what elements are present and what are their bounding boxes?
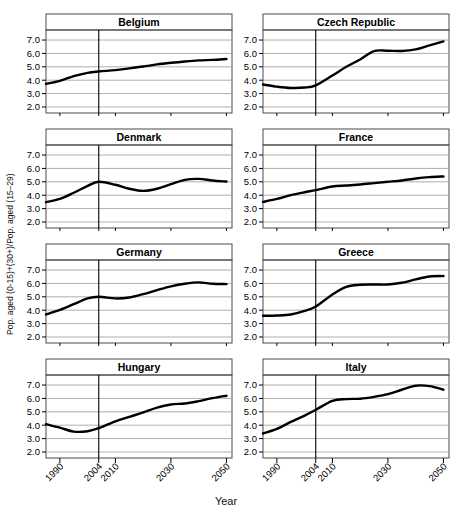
y-tick-label: 7.0 <box>244 264 257 275</box>
y-tick-label: 4.0 <box>27 420 40 431</box>
y-tick-label: 2.0 <box>244 216 257 227</box>
y-tick-label: 4.0 <box>244 75 257 86</box>
y-tick-label: 2.0 <box>27 446 40 457</box>
y-tick-label: 5.0 <box>27 291 40 302</box>
panel-title: Belgium <box>118 16 159 28</box>
y-tick-label: 4.0 <box>27 190 40 201</box>
y-tick-label: 5.0 <box>244 176 257 187</box>
y-tick-label: 3.0 <box>27 88 40 99</box>
panel-title: Hungary <box>118 361 161 373</box>
y-tick-label: 7.0 <box>27 264 40 275</box>
panel-title: Czech Republic <box>317 16 395 28</box>
y-tick-label: 4.0 <box>244 305 257 316</box>
y-tick-label: 3.0 <box>244 318 257 329</box>
y-axis-label: Pop. aged (0-15)+(30+)/Pop. aged (15–29) <box>5 173 15 335</box>
panel-title: Germany <box>116 246 162 258</box>
y-tick-label: 7.0 <box>244 34 257 45</box>
y-tick-label: 5.0 <box>27 176 40 187</box>
y-tick-label: 6.0 <box>244 278 257 289</box>
y-tick-label: 7.0 <box>27 379 40 390</box>
y-tick-label: 6.0 <box>27 278 40 289</box>
y-tick-label: 2.0 <box>244 446 257 457</box>
y-tick-label: 2.0 <box>27 331 40 342</box>
y-tick-label: 3.0 <box>244 203 257 214</box>
y-tick-label: 3.0 <box>244 433 257 444</box>
y-tick-label: 5.0 <box>27 61 40 72</box>
y-tick-label: 6.0 <box>244 48 257 59</box>
y-tick-label: 4.0 <box>244 420 257 431</box>
y-tick-label: 7.0 <box>244 379 257 390</box>
y-tick-label: 2.0 <box>27 216 40 227</box>
y-tick-label: 4.0 <box>244 190 257 201</box>
y-tick-label: 2.0 <box>27 101 40 112</box>
y-tick-label: 7.0 <box>27 34 40 45</box>
y-tick-label: 7.0 <box>27 149 40 160</box>
panel-title: Denmark <box>117 131 162 143</box>
panel-title: Italy <box>345 361 366 373</box>
y-tick-label: 7.0 <box>244 149 257 160</box>
y-tick-label: 4.0 <box>27 305 40 316</box>
x-axis-label: Year <box>215 495 238 507</box>
y-tick-label: 4.0 <box>27 75 40 86</box>
y-tick-label: 5.0 <box>244 406 257 417</box>
y-tick-label: 5.0 <box>244 61 257 72</box>
y-tick-label: 5.0 <box>27 406 40 417</box>
y-tick-label: 6.0 <box>27 393 40 404</box>
y-tick-label: 3.0 <box>27 203 40 214</box>
panel-title: France <box>339 131 374 143</box>
small-multiples-chart: Belgium2.03.04.05.06.07.0Czech Republic2… <box>0 0 453 515</box>
y-tick-label: 5.0 <box>244 291 257 302</box>
y-tick-label: 6.0 <box>27 48 40 59</box>
y-tick-label: 3.0 <box>244 88 257 99</box>
y-tick-label: 6.0 <box>244 393 257 404</box>
y-tick-label: 6.0 <box>244 163 257 174</box>
y-tick-label: 2.0 <box>244 331 257 342</box>
panel-title: Greece <box>338 246 374 258</box>
y-tick-label: 2.0 <box>244 101 257 112</box>
y-tick-label: 3.0 <box>27 318 40 329</box>
y-tick-label: 3.0 <box>27 433 40 444</box>
y-tick-label: 6.0 <box>27 163 40 174</box>
